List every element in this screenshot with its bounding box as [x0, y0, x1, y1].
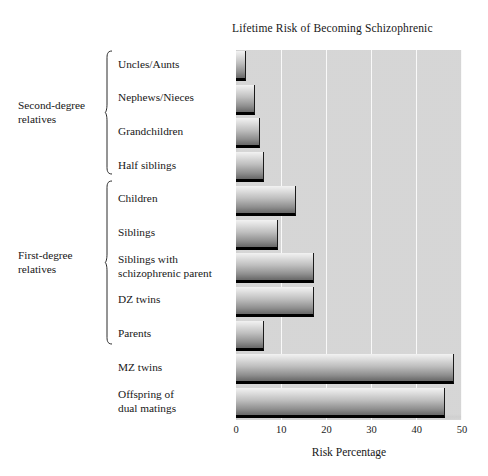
category-label: Half siblings: [118, 159, 232, 173]
bracket-second-degree: [104, 50, 113, 175]
bar-group: [236, 50, 462, 420]
bar: [236, 220, 278, 250]
x-tick-0: 0: [233, 424, 238, 435]
bar: [236, 51, 246, 81]
bar: [236, 253, 314, 283]
group-label-second-degree-line2: relatives: [18, 113, 98, 127]
category-label: Siblings: [118, 226, 232, 240]
x-tick-50: 50: [457, 424, 468, 435]
bar: [236, 287, 314, 317]
chart-figure: Lifetime Risk of Becoming Schizophrenic …: [0, 0, 488, 476]
x-axis-title: Risk Percentage: [236, 446, 462, 458]
group-label-first-degree-line1: First-degree: [18, 249, 98, 263]
bar: [236, 388, 445, 418]
bar: [236, 186, 296, 216]
group-label-first-degree-line2: relatives: [18, 263, 98, 277]
bar: [236, 321, 264, 351]
category-label: Parents: [118, 327, 232, 341]
group-label-second-degree-line1: Second-degree: [18, 99, 98, 113]
category-label: DZ twins: [118, 293, 232, 307]
bar: [236, 354, 454, 384]
bar: [236, 118, 260, 148]
category-label-line: schizophrenic parent: [118, 267, 232, 281]
bar: [236, 152, 264, 182]
group-label-second-degree: Second-degree relatives: [18, 99, 98, 126]
category-label: Nephews/Nieces: [118, 91, 232, 105]
bracket-first-degree: [104, 180, 113, 345]
category-label: Uncles/Aunts: [118, 58, 232, 72]
bar: [236, 85, 255, 115]
category-label-line: Siblings with: [118, 253, 232, 267]
x-tick-30: 30: [366, 424, 377, 435]
category-label-line: dual matings: [118, 402, 232, 416]
x-tick-40: 40: [412, 424, 423, 435]
chart-title: Lifetime Risk of Becoming Schizophrenic: [232, 22, 482, 34]
x-tick-10: 10: [276, 424, 287, 435]
x-tick-20: 20: [321, 424, 332, 435]
category-label: Grandchildren: [118, 125, 232, 139]
category-label: MZ twins: [118, 361, 232, 375]
group-label-first-degree: First-degree relatives: [18, 249, 98, 276]
category-label: Offspring ofdual matings: [118, 388, 232, 415]
plot-area: [236, 50, 462, 420]
category-label: Children: [118, 192, 232, 206]
category-label-line: Offspring of: [118, 388, 232, 402]
category-label: Siblings withschizophrenic parent: [118, 253, 232, 280]
